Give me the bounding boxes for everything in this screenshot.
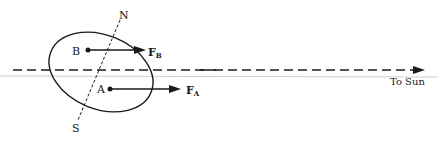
force-a-arrowhead-icon	[169, 85, 181, 93]
label-north: N	[119, 9, 129, 22]
label-force-b: FB	[148, 46, 162, 60]
tidal-force-diagram: N S B A FB FA To Sun	[0, 0, 437, 141]
label-to-sun: To Sun	[390, 76, 425, 87]
label-south: S	[72, 122, 80, 135]
force-b-arrowhead-icon	[134, 46, 146, 54]
earth-ellipse	[37, 17, 165, 126]
faint-baseline	[0, 76, 437, 77]
label-force-a: FA	[186, 84, 200, 98]
arrowhead-icon	[413, 66, 425, 74]
label-point-b: B	[72, 45, 80, 58]
label-point-a: A	[96, 83, 106, 96]
